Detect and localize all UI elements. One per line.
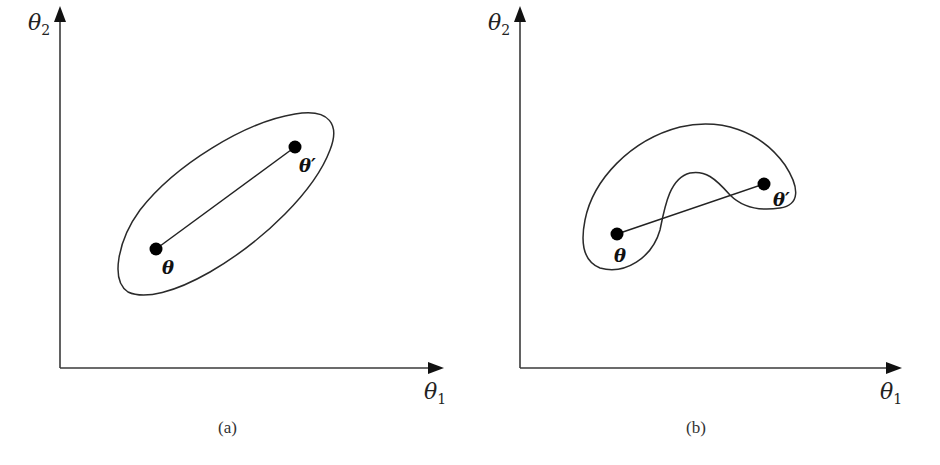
y-axis-label-b: θ2 <box>488 10 510 38</box>
y-axis-label-a: θ2 <box>28 10 50 38</box>
point-theta-prime-label-b: θ′ <box>773 189 790 210</box>
x-axis-label-b: θ1 <box>880 379 902 407</box>
line-segment-b <box>617 184 764 234</box>
x-axis-arrow-icon <box>428 362 444 374</box>
point-theta-b <box>611 228 624 241</box>
x-axis-arrow-icon <box>886 362 902 374</box>
point-theta-label-b: θ <box>614 245 626 266</box>
point-theta-a <box>150 243 163 256</box>
point-theta-prime-a <box>289 141 302 154</box>
point-theta-prime-b <box>758 178 771 191</box>
y-axis-arrow-icon <box>54 6 66 22</box>
point-theta-label-a: θ <box>162 257 174 278</box>
y-axis-arrow-icon <box>514 6 526 22</box>
point-theta-prime-label-a: θ′ <box>299 155 316 176</box>
x-axis-label-a: θ1 <box>424 379 446 407</box>
caption-b: (b) <box>686 418 706 437</box>
caption-a: (a) <box>218 418 237 437</box>
panel-b: θ2 θ1 θ θ′ (b) <box>488 6 902 437</box>
line-segment-a <box>156 147 295 249</box>
panel-a: θ2 θ1 θ θ′ (a) <box>28 6 446 437</box>
convex-region-ellipse <box>118 113 334 295</box>
convexity-figure: θ2 θ1 θ θ′ (a) θ2 θ1 θ θ′ (b) <box>0 0 940 465</box>
